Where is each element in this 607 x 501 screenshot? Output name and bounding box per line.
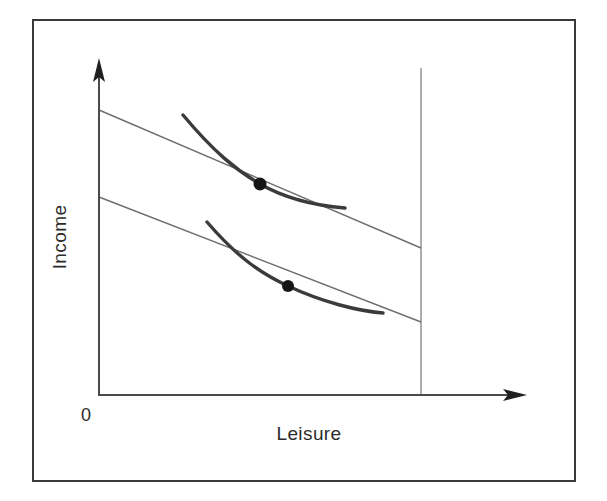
origin-label: 0 (81, 405, 91, 425)
labor-leisure-diagram: Income Leisure 0 (0, 0, 607, 501)
tangency-point-upper (254, 178, 267, 191)
indifference-curve-upper (183, 115, 345, 208)
tangency-point-lower (282, 280, 294, 292)
indifference-curve-lower (207, 222, 383, 313)
figure-frame (33, 20, 575, 481)
y-axis-label: Income (49, 205, 70, 270)
budget-line-low-wage (99, 197, 421, 322)
x-axis-label: Leisure (276, 423, 341, 444)
figure-container: Income Leisure 0 (0, 0, 607, 501)
